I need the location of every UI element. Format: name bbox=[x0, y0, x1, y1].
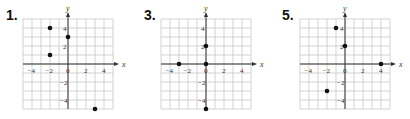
coordinate-plane: xy−4−202442−2−4 bbox=[0, 0, 136, 119]
y-tick-label: −2 bbox=[198, 79, 206, 87]
y-tick-label: −2 bbox=[60, 79, 68, 87]
graph-3: 3. xy−4−202442−2−4 bbox=[138, 0, 274, 119]
y-tick-label: 4 bbox=[340, 25, 344, 33]
x-tick-label: −4 bbox=[166, 67, 174, 75]
coordinate-plane: xy−4−202442−2−4 bbox=[138, 0, 274, 119]
x-tick-label: −4 bbox=[305, 67, 313, 75]
x-axis-label: x bbox=[121, 60, 126, 69]
y-tick-label: −2 bbox=[337, 79, 345, 87]
x-tick-label: 2 bbox=[84, 67, 88, 75]
y-tick-label: −4 bbox=[198, 97, 206, 105]
y-axis-label: y bbox=[203, 4, 208, 13]
x-axis-arrow-icon bbox=[114, 62, 119, 66]
data-point bbox=[343, 44, 348, 49]
y-axis-label: y bbox=[65, 4, 70, 13]
data-point bbox=[204, 62, 209, 67]
x-axis-arrow-icon bbox=[252, 62, 257, 66]
y-tick-label: 2 bbox=[63, 43, 67, 51]
x-axis-label: x bbox=[398, 60, 403, 69]
coordinate-plane: xy−4−202442−2−4 bbox=[277, 0, 410, 119]
graph-1: 1. xy−4−202442−2−4 bbox=[0, 0, 136, 119]
data-point bbox=[325, 89, 330, 94]
data-point bbox=[177, 62, 182, 67]
data-point bbox=[379, 62, 384, 67]
x-tick-label: 0 bbox=[66, 67, 70, 75]
data-point bbox=[66, 35, 71, 40]
x-tick-label: −2 bbox=[184, 67, 192, 75]
x-tick-label: 0 bbox=[343, 67, 347, 75]
x-tick-label: −2 bbox=[323, 67, 331, 75]
x-tick-label: −2 bbox=[46, 67, 54, 75]
y-axis-label: y bbox=[342, 4, 347, 13]
data-point bbox=[204, 107, 209, 112]
graph-5: 5. xy−4−202442−2−4 bbox=[277, 0, 410, 119]
x-axis-label: x bbox=[259, 60, 264, 69]
data-point bbox=[334, 26, 339, 31]
y-tick-label: −4 bbox=[60, 97, 68, 105]
x-tick-label: 0 bbox=[204, 67, 208, 75]
data-point bbox=[204, 44, 209, 49]
data-point bbox=[93, 107, 98, 112]
x-tick-label: 4 bbox=[379, 67, 383, 75]
x-tick-label: 4 bbox=[240, 67, 244, 75]
x-tick-label: 2 bbox=[222, 67, 226, 75]
y-tick-label: −4 bbox=[337, 97, 345, 105]
x-tick-label: 4 bbox=[102, 67, 106, 75]
y-tick-label: 4 bbox=[201, 25, 205, 33]
data-point bbox=[48, 53, 53, 58]
data-point bbox=[48, 26, 53, 31]
x-axis-arrow-icon bbox=[391, 62, 396, 66]
x-tick-label: −4 bbox=[28, 67, 36, 75]
x-tick-label: 2 bbox=[361, 67, 365, 75]
y-tick-label: 4 bbox=[63, 25, 67, 33]
